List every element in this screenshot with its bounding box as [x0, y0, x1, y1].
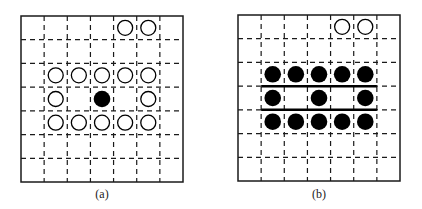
hollow-circle-icon — [71, 68, 86, 83]
filled-circle-icon — [357, 113, 374, 130]
hollow-circle-icon — [48, 92, 63, 107]
hollow-circle-icon — [71, 115, 86, 130]
filled-circle-icon — [357, 90, 374, 107]
hollow-circle-icon — [118, 115, 133, 130]
hollow-circle-icon — [118, 20, 133, 35]
hollow-circle-icon — [335, 19, 350, 34]
caption-b: (b) — [299, 187, 339, 202]
filled-circle-icon — [94, 91, 111, 108]
hollow-circle-icon — [141, 68, 156, 83]
hollow-circle-icon — [358, 19, 373, 34]
hollow-circle-icon — [48, 68, 63, 83]
hollow-circle-icon — [141, 115, 156, 130]
filled-circle-icon — [311, 113, 328, 130]
panel-b — [238, 15, 400, 181]
filled-circle-icon — [357, 66, 374, 83]
hollow-circle-icon — [95, 115, 110, 130]
filled-circle-icon — [334, 66, 351, 83]
hollow-circle-icon — [95, 68, 110, 83]
grid-a — [21, 16, 183, 182]
filled-circle-icon — [311, 66, 328, 83]
filled-circle-icon — [264, 113, 281, 130]
filled-circle-icon — [311, 90, 328, 107]
filled-circle-icon — [288, 113, 305, 130]
hollow-circle-icon — [141, 20, 156, 35]
filled-circle-icon — [264, 90, 281, 107]
caption-a: (a) — [82, 187, 122, 202]
filled-circle-icon — [264, 66, 281, 83]
hollow-circle-icon — [141, 92, 156, 107]
grid-b — [238, 15, 400, 181]
panel-a — [21, 16, 183, 182]
hollow-circle-icon — [48, 115, 63, 130]
filled-circle-icon — [288, 66, 305, 83]
filled-circle-icon — [334, 113, 351, 130]
hollow-circle-icon — [118, 68, 133, 83]
